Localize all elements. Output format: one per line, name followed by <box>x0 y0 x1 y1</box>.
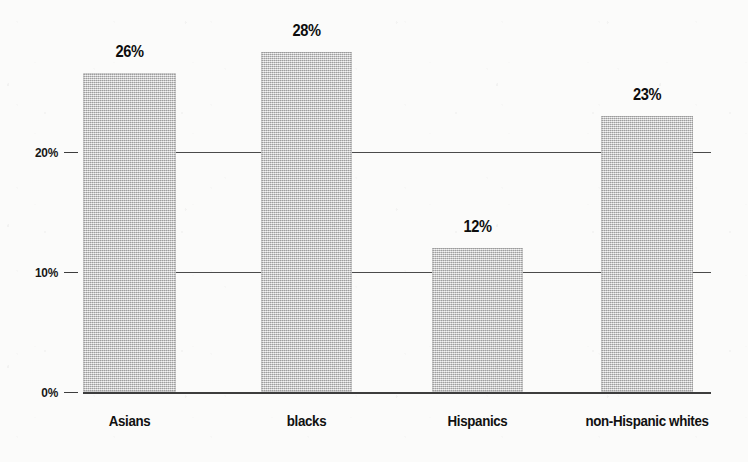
x-axis-label-blacks: blacks <box>250 412 363 430</box>
bar-blacks[interactable] <box>261 52 352 392</box>
bar-chart: 20% 10% 0% 26% 28% 12% 23% Asians blacks… <box>0 0 748 462</box>
y-axis-label-10-percent: 10% <box>16 265 58 280</box>
x-axis-label-hispanics: Hispanics <box>421 412 534 430</box>
bar-value-label-blacks: 28% <box>267 21 345 41</box>
plot-area: 20% 10% 0% 26% 28% 12% 23% Asians blacks… <box>0 0 748 462</box>
y-axis-label-20-percent: 20% <box>16 145 58 160</box>
bar-value-label-hispanics: 12% <box>438 217 516 237</box>
bar-asians[interactable] <box>83 73 176 392</box>
y-tick-mark-20 <box>64 152 78 153</box>
x-axis-label-non-hispanic-whites: non-Hispanic whites <box>564 412 729 430</box>
x-axis-label-asians: Asians <box>72 412 186 430</box>
y-axis-label-0-percent: 0% <box>16 385 58 400</box>
y-tick-mark-10 <box>64 272 78 273</box>
bar-hispanics[interactable] <box>432 248 523 392</box>
bar-non-hispanic-whites[interactable] <box>601 116 693 392</box>
axis-baseline-0-percent <box>83 392 711 394</box>
y-tick-mark-0 <box>64 392 78 393</box>
bar-value-label-asians: 26% <box>90 42 170 62</box>
bar-value-label-non-hispanic-whites: 23% <box>607 85 686 105</box>
